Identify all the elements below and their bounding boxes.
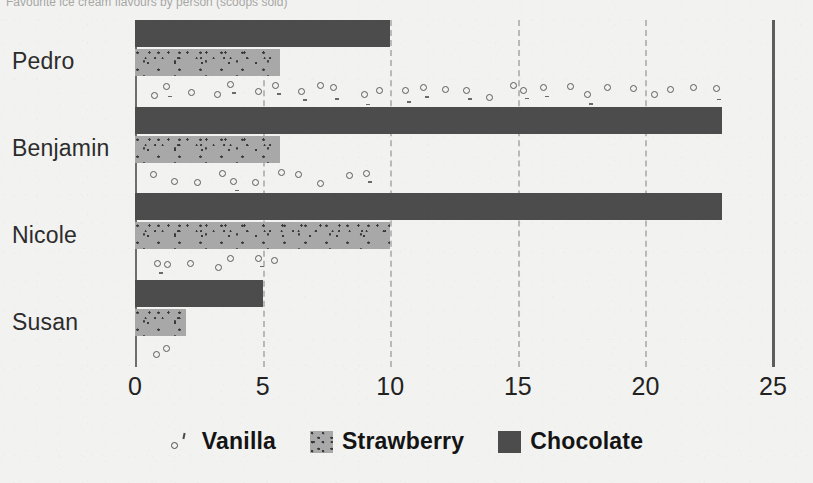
vanilla-ring xyxy=(252,179,259,186)
vanilla-ring xyxy=(163,345,170,352)
legend-label-chocolate: Chocolate xyxy=(530,428,643,455)
vanilla-ring xyxy=(163,83,170,90)
vanilla-swatch xyxy=(170,431,193,453)
vanilla-ring xyxy=(215,264,222,271)
vanilla-ring xyxy=(298,88,305,95)
legend-item-strawberry[interactable]: Strawberry xyxy=(310,428,464,455)
y-axis-category-labels: PedroBenjaminNicoleSusan xyxy=(0,0,122,483)
vanilla-ring xyxy=(376,87,383,94)
legend-item-vanilla[interactable]: Vanilla xyxy=(170,428,276,455)
x-tick-label-25: 25 xyxy=(759,372,787,400)
vanilla-ring xyxy=(255,255,262,262)
vanilla-ring xyxy=(150,171,157,178)
vanilla-ring xyxy=(194,179,201,186)
bar-benjamin-vanilla xyxy=(135,165,375,192)
bar-nicole-vanilla xyxy=(135,251,280,278)
bar-nicole-chocolate xyxy=(135,193,722,220)
vanilla-ring xyxy=(317,82,324,89)
vanilla-ring xyxy=(540,84,547,91)
category-label-nicole: Nicole xyxy=(12,224,77,247)
vanilla-ring xyxy=(651,91,658,98)
bar-pedro-chocolate xyxy=(135,20,390,47)
vanilla-ring xyxy=(153,351,160,358)
bar-benjamin-strawberry xyxy=(135,136,280,163)
x-tick-label-0: 0 xyxy=(128,372,142,400)
vanilla-ring xyxy=(188,89,195,96)
vanilla-ring xyxy=(317,180,324,187)
vanilla-ring xyxy=(604,84,611,91)
bar-susan-chocolate xyxy=(135,280,263,307)
vanilla-speck xyxy=(277,93,281,95)
vanilla-speck xyxy=(525,98,529,100)
vanilla-ring xyxy=(164,261,171,268)
vanilla-ring xyxy=(510,82,517,89)
bar-pedro-vanilla xyxy=(135,78,722,105)
vanilla-speck xyxy=(468,98,472,100)
vanilla-ring xyxy=(219,170,226,177)
vanilla-ring xyxy=(187,260,194,267)
vanilla-ring xyxy=(151,92,158,99)
vanilla-speck xyxy=(407,101,411,103)
vanilla-ring xyxy=(278,169,285,176)
vanilla-speck xyxy=(260,266,264,268)
plot-area xyxy=(135,20,773,367)
vanilla-ring xyxy=(346,172,353,179)
x-axis-max-line xyxy=(772,20,775,367)
vanilla-ring xyxy=(486,94,493,101)
x-tick-label-15: 15 xyxy=(504,372,532,400)
x-axis-tick-labels: 0510152025 xyxy=(135,372,773,406)
vanilla-ring xyxy=(420,84,427,91)
vanilla-speck xyxy=(303,99,307,101)
x-tick-label-20: 20 xyxy=(631,372,659,400)
vanilla-ring xyxy=(271,257,278,264)
legend-label-vanilla: Vanilla xyxy=(202,428,276,455)
bar-pedro-strawberry xyxy=(135,49,280,76)
vanilla-ring xyxy=(255,88,262,95)
vanilla-ring xyxy=(272,82,279,89)
vanilla-ring xyxy=(442,86,449,93)
vanilla-ring xyxy=(520,87,527,94)
legend-label-strawberry: Strawberry xyxy=(342,428,464,455)
bar-susan-strawberry xyxy=(135,309,186,336)
strawberry-swatch xyxy=(310,431,333,453)
vanilla-speck xyxy=(168,96,172,98)
bar-nicole-strawberry xyxy=(135,222,390,249)
vanilla-ring xyxy=(630,85,637,92)
vanilla-ring xyxy=(690,84,697,91)
vanilla-ring xyxy=(154,260,161,267)
x-tick-label-5: 5 xyxy=(256,372,270,400)
vanilla-ring xyxy=(463,87,470,94)
vanilla-ring xyxy=(330,84,337,91)
vanilla-ring xyxy=(713,85,720,92)
vanilla-speck xyxy=(589,103,593,105)
bar-susan-vanilla xyxy=(135,338,173,365)
x-tick-label-10: 10 xyxy=(376,372,404,400)
vanilla-ring xyxy=(227,81,234,88)
vanilla-speck xyxy=(545,96,549,98)
vanilla-ring xyxy=(227,255,234,262)
chocolate-swatch xyxy=(498,431,521,453)
vanilla-speck xyxy=(368,181,372,183)
vanilla-speck xyxy=(235,190,239,192)
vanilla-speck xyxy=(159,272,163,274)
vanilla-speck xyxy=(366,104,370,105)
vanilla-speck xyxy=(425,96,429,98)
bar-benjamin-chocolate xyxy=(135,107,722,134)
vanilla-speck xyxy=(182,432,185,438)
vanilla-ring xyxy=(667,86,674,93)
legend-item-chocolate[interactable]: Chocolate xyxy=(498,428,643,455)
vanilla-ring xyxy=(230,178,237,185)
chart-container: Favourite ice cream flavours by person (… xyxy=(0,0,813,483)
vanilla-ring xyxy=(361,91,368,98)
vanilla-ring xyxy=(584,91,591,98)
chart-legend: VanillaStrawberryChocolate xyxy=(0,428,813,455)
vanilla-speck xyxy=(232,92,236,94)
category-label-benjamin: Benjamin xyxy=(12,137,110,160)
vanilla-speck xyxy=(335,98,339,100)
vanilla-ring xyxy=(402,87,409,94)
vanilla-ring xyxy=(363,170,370,177)
vanilla-speck xyxy=(717,99,721,101)
vanilla-ring xyxy=(171,178,178,185)
vanilla-ring xyxy=(214,91,221,98)
category-label-susan: Susan xyxy=(12,311,78,334)
